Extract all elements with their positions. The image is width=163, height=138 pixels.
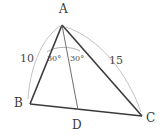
vertex-label-a: A [59,3,68,15]
geometry-figure: A B C D 10 15 30° 30° [0,0,163,138]
segment-ac [62,25,142,116]
measure-arc-ac [66,27,141,112]
segment-ad [62,25,78,110]
vertex-label-b: B [14,97,23,109]
segment-bc [30,104,142,116]
side-length-label-ac: 15 [109,55,123,66]
vertex-label-d: D [72,119,82,131]
angle-label-bad: 30° [47,55,61,63]
angle-label-dac: 30° [70,55,84,63]
vertex-label-c: C [146,112,155,124]
side-length-label-ab: 10 [20,53,34,64]
